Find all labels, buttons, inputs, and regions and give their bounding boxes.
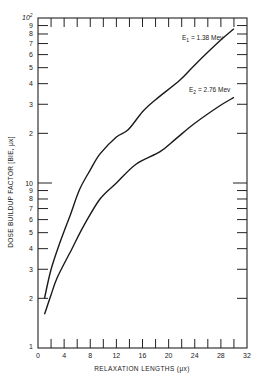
series-label-e1: E1 = 1.38 Mev — [182, 34, 224, 43]
y-tick-label: 3 — [29, 266, 33, 273]
y-tick-label: 5 — [29, 229, 33, 236]
series-label-e2: E2 = 2.76 Mev — [189, 86, 231, 95]
x-tick-label: 20 — [165, 352, 173, 359]
x-tick-label: 28 — [217, 352, 225, 359]
x-axis-label: RELAXATION LENGTHS (μx) — [94, 365, 190, 373]
x-tick-label: 12 — [112, 352, 120, 359]
y-tick-label: 6 — [29, 216, 33, 223]
y-tick-label: 10 — [25, 180, 33, 187]
plot-border — [38, 18, 247, 348]
plot-frame — [38, 18, 247, 348]
y-axis-label: DOSE BUILDUP FACTOR [BIE, μx] — [7, 136, 15, 248]
y-tick-label: 2 — [29, 130, 33, 137]
x-tick-label: 32 — [243, 352, 251, 359]
data-curves — [45, 29, 234, 315]
y-tick-label: 6 — [29, 51, 33, 58]
y-tick-label: 3 — [29, 101, 33, 108]
axis-ticks — [38, 18, 247, 348]
x-tick-label: 16 — [139, 352, 147, 359]
x-tick-label: 0 — [36, 352, 40, 359]
x-tick-label: 4 — [62, 352, 66, 359]
y-tick-label: 2 — [29, 295, 33, 302]
y-tick-label: 7 — [29, 205, 33, 212]
buildup-factor-chart: 0481216202428321234567891023456789 E1 = … — [0, 0, 267, 384]
y-tick-label: 4 — [29, 80, 33, 87]
y-top-tick-label: 102 — [22, 12, 33, 21]
y-tick-label: 5 — [29, 64, 33, 71]
x-tick-label: 8 — [88, 352, 92, 359]
axis-tick-labels: 0481216202428321234567891023456789 — [25, 22, 251, 359]
curve-e1 — [45, 29, 234, 299]
y-tick-label: 9 — [29, 187, 33, 194]
y-tick-label: 8 — [29, 195, 33, 202]
y-tick-label: 9 — [29, 22, 33, 29]
y-tick-label: 1 — [29, 343, 33, 350]
x-tick-label: 24 — [191, 352, 199, 359]
y-tick-label: 8 — [29, 30, 33, 37]
y-tick-label: 7 — [29, 40, 33, 47]
y-tick-label: 4 — [29, 245, 33, 252]
